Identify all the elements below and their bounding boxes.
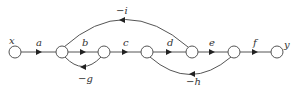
label-neg-h: −h xyxy=(186,76,201,87)
label-f: f xyxy=(252,37,259,48)
label-d: d xyxy=(167,37,173,48)
node-1 xyxy=(56,46,68,58)
arrow-f-icon xyxy=(252,49,258,55)
edge-neg-g xyxy=(65,57,101,67)
arrow-b-icon xyxy=(80,49,86,55)
arrow-e-icon xyxy=(209,49,215,55)
label-neg-g: −g xyxy=(78,73,93,84)
label-b: b xyxy=(82,37,88,48)
node-5 xyxy=(228,46,240,58)
label-e: e xyxy=(209,37,215,48)
label-a: a xyxy=(36,37,42,48)
arrow-neg-g-icon xyxy=(80,64,86,70)
node-y xyxy=(271,46,283,58)
label-c: c xyxy=(123,37,129,48)
arrow-d-icon xyxy=(166,49,172,55)
node-2 xyxy=(98,46,110,58)
label-y: y xyxy=(283,39,290,50)
node-x xyxy=(9,46,21,58)
arrow-c-icon xyxy=(122,49,128,55)
arrow-neg-i-icon xyxy=(119,17,125,23)
edge-neg-h xyxy=(150,57,231,75)
node-3 xyxy=(141,46,153,58)
node-4 xyxy=(186,46,198,58)
label-neg-i: −i xyxy=(116,5,128,16)
arrow-a-icon xyxy=(36,49,42,55)
signal-flow-graph: x y a b c d e f −g −h −i xyxy=(0,0,294,90)
label-x: x xyxy=(9,35,15,46)
